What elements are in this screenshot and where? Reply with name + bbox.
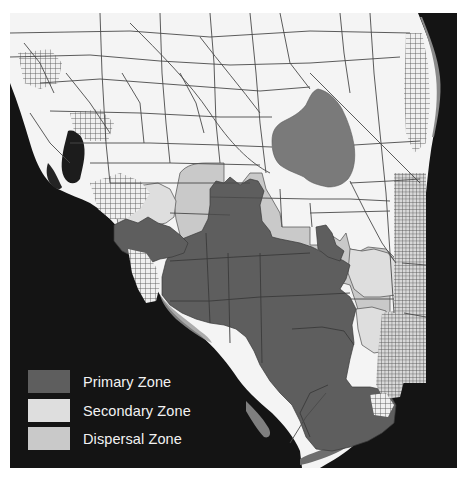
map-legend: Primary Zone Secondary Zone Dispersal Zo… <box>28 370 248 468</box>
legend-item-dispersal-zone: Dispersal Zone <box>28 427 182 450</box>
legend-label-secondary-zone: Secondary Zone <box>83 403 191 419</box>
legend-label-dispersal-zone: Dispersal Zone <box>83 431 182 447</box>
secondary-zone-swatch <box>28 399 70 422</box>
dispersal-zone-swatch <box>28 427 70 450</box>
primary-zone-swatch <box>28 370 70 393</box>
legend-item-primary-zone: Primary Zone <box>28 370 171 393</box>
legend-item-secondary-zone: Secondary Zone <box>28 399 191 422</box>
legend-label-primary-zone: Primary Zone <box>83 374 171 390</box>
map-frame: Primary Zone Secondary Zone Dispersal Zo… <box>10 13 457 468</box>
